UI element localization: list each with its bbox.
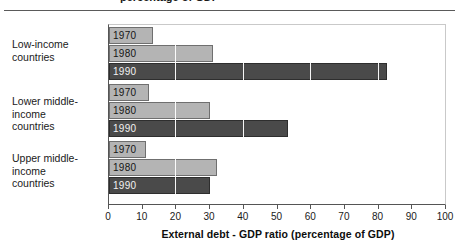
gridline bbox=[310, 25, 311, 204]
category-label-line2: countries bbox=[12, 177, 108, 190]
category-label-line1: Lower middle-income bbox=[12, 95, 108, 120]
bar-1990[interactable]: 1990 bbox=[109, 120, 288, 137]
x-axis-tick bbox=[142, 205, 143, 209]
gridline bbox=[378, 25, 379, 204]
bar-row: 1980 bbox=[109, 159, 445, 176]
plot-area: 1970 1980 1990 1970 1 bbox=[108, 24, 446, 205]
bar-year-label: 1970 bbox=[113, 29, 136, 43]
bar-year-label: 1980 bbox=[113, 161, 136, 175]
bar-1970[interactable]: 1970 bbox=[109, 141, 146, 158]
bar-year-label: 1970 bbox=[113, 143, 136, 157]
x-axis-tick bbox=[243, 205, 244, 209]
bar-row: 1990 bbox=[109, 63, 445, 80]
category-label-line1: Upper middle-income bbox=[12, 152, 108, 177]
bar-group-lower-middle-income: 1970 1980 1990 bbox=[109, 84, 445, 138]
bar-row: 1990 bbox=[109, 177, 445, 194]
clipped-title-text: percentage of GDP bbox=[120, 0, 360, 3]
x-axis-title: External debt - GDP ratio (percentage of… bbox=[108, 228, 448, 240]
bar-year-label: 1970 bbox=[113, 86, 136, 100]
bar-1980[interactable]: 1980 bbox=[109, 102, 210, 119]
gridline bbox=[243, 25, 244, 204]
bar-1990[interactable]: 1990 bbox=[109, 63, 387, 80]
category-label-upper-middle-income: Upper middle-income countries bbox=[12, 152, 108, 190]
bar-row: 1970 bbox=[109, 84, 445, 101]
x-axis-tick bbox=[277, 205, 278, 209]
bar-1970[interactable]: 1970 bbox=[109, 84, 149, 101]
bar-1990[interactable]: 1990 bbox=[109, 177, 210, 194]
category-label-lower-middle-income: Lower middle-income countries bbox=[12, 95, 108, 133]
bar-row: 1970 bbox=[109, 141, 445, 158]
bar-group-upper-middle-income: 1970 1980 1990 bbox=[109, 141, 445, 195]
category-label-low-income: Low-income countries bbox=[12, 38, 108, 63]
x-axis-tick bbox=[108, 205, 109, 209]
bar-row: 1980 bbox=[109, 45, 445, 62]
bar-1970[interactable]: 1970 bbox=[109, 27, 153, 44]
bar-year-label: 1980 bbox=[113, 47, 136, 61]
x-axis-tick bbox=[209, 205, 210, 209]
x-axis-tick bbox=[445, 205, 446, 209]
header-divider bbox=[4, 10, 455, 11]
category-label-line2: countries bbox=[12, 120, 108, 133]
category-label-line2: countries bbox=[12, 51, 108, 64]
bar-year-label: 1990 bbox=[113, 65, 136, 79]
bar-row: 1980 bbox=[109, 102, 445, 119]
category-label-line1: Low-income bbox=[12, 38, 108, 51]
bar-row: 1990 bbox=[109, 120, 445, 137]
x-axis-tick bbox=[411, 205, 412, 209]
gridline bbox=[175, 25, 176, 204]
bar-year-label: 1990 bbox=[113, 122, 136, 136]
bar-year-label: 1990 bbox=[113, 179, 136, 193]
x-axis-tick-label: 100 bbox=[425, 211, 459, 222]
bar-year-label: 1980 bbox=[113, 104, 136, 118]
bar-group-low-income: 1970 1980 1990 bbox=[109, 27, 445, 81]
bar-1980[interactable]: 1980 bbox=[109, 159, 217, 176]
x-axis-tick bbox=[175, 205, 176, 209]
bar-1980[interactable]: 1980 bbox=[109, 45, 213, 62]
x-axis-tick bbox=[344, 205, 345, 209]
x-axis-tick bbox=[310, 205, 311, 209]
x-axis-tick bbox=[378, 205, 379, 209]
bar-row: 1970 bbox=[109, 27, 445, 44]
chart-figure: percentage of GDP Low-income countries L… bbox=[0, 0, 459, 247]
